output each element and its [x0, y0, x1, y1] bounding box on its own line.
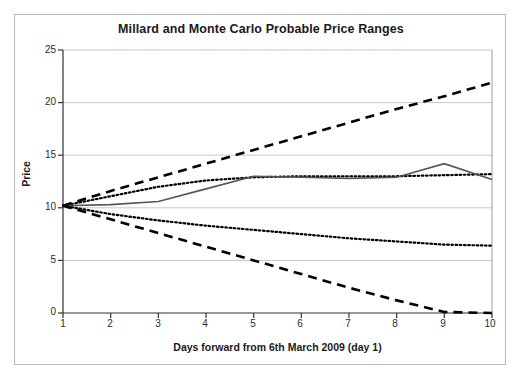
plot-area — [0, 0, 522, 381]
series-line — [63, 174, 492, 206]
gridlines — [63, 50, 492, 260]
series-line — [63, 206, 492, 246]
series-line — [63, 83, 492, 206]
chart-figure: Millard and Monte Carlo Probable Price R… — [0, 0, 522, 381]
data-series-group — [63, 83, 492, 313]
series-line — [63, 206, 492, 313]
series-line — [63, 164, 492, 206]
axis-ticks — [58, 50, 492, 318]
